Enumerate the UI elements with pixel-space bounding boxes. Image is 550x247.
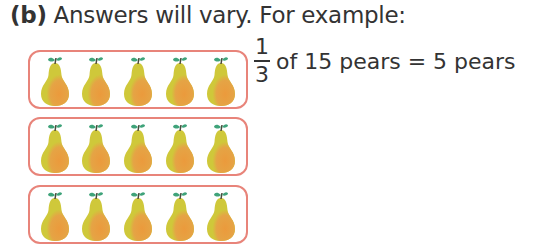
pear-icon xyxy=(205,55,237,107)
pear-icon xyxy=(122,55,154,107)
pear-group-3 xyxy=(28,185,248,244)
pear-icon xyxy=(122,190,154,242)
pear-group-2 xyxy=(28,117,248,176)
pear-icon xyxy=(39,55,71,107)
equation-text: of 15 pears = 5 pears xyxy=(276,49,516,74)
pear-icon xyxy=(164,190,196,242)
pear-icon xyxy=(80,190,112,242)
fraction-denominator: 3 xyxy=(255,64,269,86)
question-label: (b) xyxy=(10,2,47,28)
pear-icon xyxy=(164,55,196,107)
pear-icon xyxy=(205,122,237,174)
pear-icon xyxy=(39,122,71,174)
pear-icon xyxy=(80,122,112,174)
question-heading: (b) Answers will vary. For example: xyxy=(10,2,406,28)
pear-icon xyxy=(39,190,71,242)
pear-group-1 xyxy=(28,50,248,109)
pear-icon xyxy=(80,55,112,107)
pear-icon xyxy=(205,190,237,242)
fraction-numerator: 1 xyxy=(255,36,269,58)
fraction-equation: 1 3 of 15 pears = 5 pears xyxy=(254,36,516,86)
pear-icon xyxy=(164,122,196,174)
pear-icon xyxy=(122,122,154,174)
question-text: Answers will vary. For example: xyxy=(47,2,406,28)
fraction: 1 3 xyxy=(254,36,270,86)
